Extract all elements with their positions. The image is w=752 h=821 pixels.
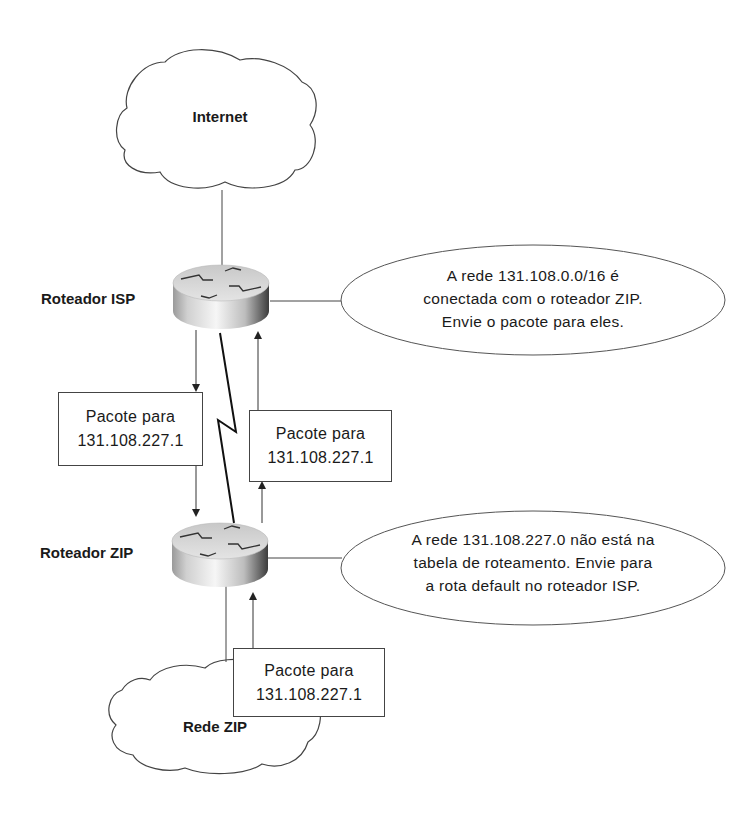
- packet-line1: Pacote para: [276, 422, 366, 446]
- packet-line2: 131.108.227.1: [77, 429, 183, 453]
- callout-line: tabela de roteamento. Envie para: [350, 551, 716, 574]
- internet-label: Internet: [175, 108, 265, 125]
- router-zip-icon: [172, 523, 268, 587]
- packet-box-rede-zip: Pacote para 131.108.227.1: [233, 648, 385, 717]
- callout-line: A rede 131.108.0.0/16 é: [350, 264, 716, 287]
- callout-line: a rota default no roteador ISP.: [350, 574, 716, 597]
- packet-line1: Pacote para: [264, 659, 354, 683]
- packet-line2: 131.108.227.1: [256, 683, 362, 707]
- callout-line: Envie o pacote para eles.: [350, 310, 716, 333]
- router-isp-label: Roteador ISP: [41, 290, 135, 307]
- isp-callout-text: A rede 131.108.0.0/16 é conectada com o …: [350, 264, 716, 333]
- router-zip-label: Roteador ZIP: [40, 544, 133, 561]
- packet-box-downstream: Pacote para 131.108.227.1: [58, 392, 203, 466]
- packet-line2: 131.108.227.1: [267, 446, 373, 470]
- serial-link: [218, 333, 236, 523]
- packet-box-upstream: Pacote para 131.108.227.1: [249, 410, 392, 482]
- callout-line: A rede 131.108.227.0 não está na: [350, 528, 716, 551]
- packet-line1: Pacote para: [86, 405, 176, 429]
- zip-callout-text: A rede 131.108.227.0 não está na tabela …: [350, 528, 716, 597]
- router-isp-icon: [173, 265, 269, 329]
- rede-zip-label: Rede ZIP: [160, 718, 270, 735]
- callout-line: conectada com o roteador ZIP.: [350, 287, 716, 310]
